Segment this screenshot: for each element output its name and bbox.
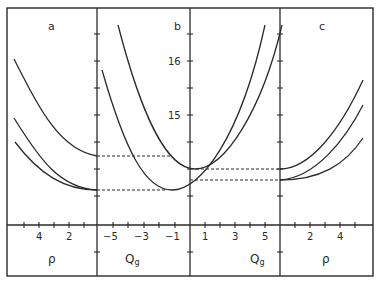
x-tick-label-b-1: 1 — [202, 231, 208, 242]
curve-a-lower — [15, 142, 97, 190]
x-tick-label-b-m3: −3 — [134, 231, 149, 242]
x-tick-label-c-4: 4 — [337, 231, 343, 242]
x-tick-label-b-5: 5 — [262, 231, 268, 242]
curve-c-lower — [280, 138, 363, 180]
y-tick-label-15: 15 — [168, 110, 181, 121]
x-axis-title-a-rho: ρ — [48, 252, 56, 266]
panel-label-c: c — [319, 20, 325, 33]
panel-b-curves — [102, 25, 282, 190]
panel-c-curves — [280, 80, 363, 180]
curve-a-upper — [14, 59, 97, 156]
x-tick-label-b-m5: −5 — [103, 231, 118, 242]
x-tick-label-a-2: 2 — [66, 231, 72, 242]
x-axis-title-b-right-qg: Qg — [250, 252, 265, 267]
panel-a-curves — [14, 59, 97, 190]
x-tick-label-b-m1: −1 — [165, 231, 180, 242]
x-axis-title-c-rho: ρ — [322, 252, 330, 266]
parabola-right — [118, 25, 282, 169]
y-tick-label-16: 16 — [168, 56, 181, 67]
curve-c-middle — [280, 105, 363, 180]
x-tick-label-c-2: 2 — [307, 231, 313, 242]
x-tick-label-a-4: 4 — [36, 231, 42, 242]
panel-label-b: b — [174, 20, 181, 33]
curve-c-upper — [280, 80, 363, 169]
x-tick-label-b-3: 3 — [232, 231, 238, 242]
x-axis-title-b-left-qg: Qg — [125, 252, 140, 267]
energy-curves-figure: a b c 16 15 4 2 −5 −3 −1 1 3 5 2 4 ρ Qg … — [0, 0, 378, 282]
panel-label-a: a — [48, 20, 55, 33]
